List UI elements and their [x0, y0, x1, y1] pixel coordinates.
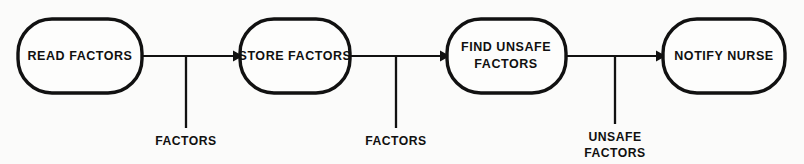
node-notify-nurse[interactable]: NOTIFY NURSE	[663, 19, 785, 93]
flow-label-3-line2: FACTORS	[584, 146, 646, 160]
node-find-unsafe-factors-label-line1: FIND UNSAFE	[461, 40, 551, 54]
flow-label-2-line1: FACTORS	[365, 134, 427, 148]
node-notify-nurse-label: NOTIFY NURSE	[674, 49, 773, 63]
node-read-factors-label: READ FACTORS	[28, 49, 133, 63]
flow-factors-2[interactable]: FACTORS	[350, 51, 450, 149]
node-store-factors-label: STORE FACTORS	[239, 49, 352, 63]
node-find-unsafe-factors[interactable]: FIND UNSAFE FACTORS	[447, 19, 566, 93]
node-find-unsafe-factors-label-line2: FACTORS	[474, 57, 537, 71]
diagram-canvas: FACTORS FACTORS UNSAFE FACTORS READ FACT…	[0, 0, 804, 164]
flow-label-1-line1: FACTORS	[155, 134, 217, 148]
diagram-svg: FACTORS FACTORS UNSAFE FACTORS READ FACT…	[0, 0, 804, 164]
node-read-factors[interactable]: READ FACTORS	[18, 19, 142, 93]
flow-label-3-line1: UNSAFE	[588, 130, 641, 144]
flow-unsafe-factors[interactable]: UNSAFE FACTORS	[566, 51, 666, 161]
node-store-factors[interactable]: STORE FACTORS	[239, 19, 352, 93]
flow-factors-1[interactable]: FACTORS	[142, 51, 243, 149]
node-find-unsafe-factors-shape	[447, 19, 566, 93]
